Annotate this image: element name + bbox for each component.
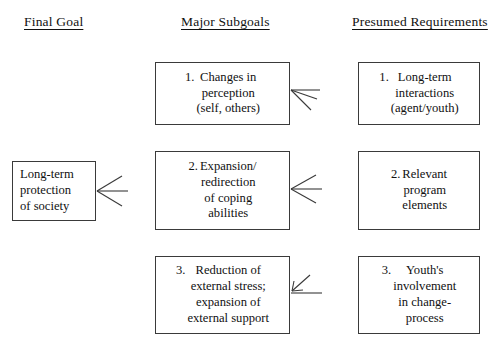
node-subgoal-3-text: Reduction of external stress; expansion … [187,263,268,327]
node-subgoal-2: 2. Expansion/ redirection of coping abil… [155,151,290,230]
node-requirement-2: 2. Relevant program elements [358,151,480,230]
node-requirement-2-text: Relevant program elements [402,167,447,215]
column-header-final-goal: Final Goal [24,14,83,30]
node-requirement-3-number: 3. [382,263,393,279]
arrow-to-subgoal-1 [291,90,320,110]
column-header-major-subgoals: Major Subgoals [181,14,270,30]
node-final-goal-text: Long-term protection of society [20,167,91,215]
node-subgoal-1-number: 1. [185,70,196,86]
diagram-canvas: Final Goal Major Subgoals Presumed Requi… [0,0,495,342]
node-subgoal-3: 3. Reduction of external stress; expansi… [155,256,290,334]
node-requirement-2-number: 2. [391,167,402,183]
node-subgoal-2-text: Expansion/ redirection of coping abiliti… [200,159,257,223]
node-requirement-3-text: Youth's involvement in change- process [393,263,456,327]
node-requirement-1-number: 1. [379,70,390,86]
node-requirement-1: 1. Long-term interactions (agent/youth) [358,62,480,125]
arrow-to-subgoal-3 [291,275,322,293]
node-final-goal: Long-term protection of society [12,161,96,221]
arrow-to-final-goal [97,176,128,206]
node-subgoal-3-number: 3. [176,263,187,279]
node-subgoal-1: 1. Changes in perception (self, others) [155,62,290,125]
column-header-presumed-requirements: Presumed Requirements [352,14,488,30]
arrow-to-subgoal-2 [291,175,322,203]
node-requirement-1-text: Long-term interactions (agent/youth) [391,70,459,118]
node-subgoal-2-number: 2. [188,159,199,175]
node-subgoal-1-text: Changes in perception (self, others) [196,70,260,118]
node-requirement-3: 3. Youth's involvement in change- proces… [358,256,480,334]
